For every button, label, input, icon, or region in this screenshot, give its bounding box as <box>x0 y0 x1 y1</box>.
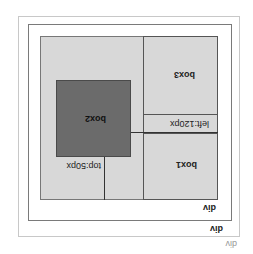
top-annotation-label: top:50px <box>66 161 101 171</box>
inner-div-label: div <box>203 203 216 213</box>
diagram-rotated: div div div box1 left:120px box3 box2 to… <box>0 0 253 254</box>
box1: box1 <box>143 133 218 200</box>
outer-div-label: div <box>225 239 237 249</box>
box1-label: box1 <box>176 160 197 170</box>
box3-label: box3 <box>174 70 195 80</box>
left-offset-line <box>131 132 218 133</box>
box3: box3 <box>143 36 218 115</box>
box2: box2 <box>56 80 131 157</box>
box2-label: box2 <box>85 114 106 124</box>
middle-div-label: div <box>210 224 223 234</box>
left-annotation-strip: left:120px <box>143 114 218 134</box>
left-annotation-label: left:120px <box>170 119 209 129</box>
top-offset-line <box>104 157 105 200</box>
